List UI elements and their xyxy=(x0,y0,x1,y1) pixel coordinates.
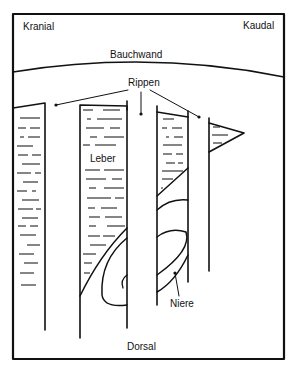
label-ribs: Rippen xyxy=(128,77,160,88)
kidney-outline-rib2 xyxy=(102,238,127,306)
frame-border xyxy=(13,14,284,359)
rib-1 xyxy=(13,103,45,330)
kidney-leader-line xyxy=(175,273,179,296)
kidney-upper-edge xyxy=(157,200,188,210)
liver-lower-edge xyxy=(80,228,127,296)
rib-2-liver: Leber xyxy=(80,101,127,338)
label-caudal: Kaudal xyxy=(243,20,274,31)
rib-3-kidney: Niere xyxy=(157,106,194,309)
kidney-arc xyxy=(157,230,187,275)
kidney-lower-edge xyxy=(157,255,188,292)
rib-4 xyxy=(209,118,244,271)
label-dorsal: Dorsal xyxy=(127,341,156,352)
label-liver: Leber xyxy=(90,153,116,164)
liver-edge-rib3 xyxy=(157,168,188,196)
label-kidney: Niere xyxy=(170,298,194,309)
anatomy-diagram: Kranial Kaudal Bauchwand Rippen xyxy=(0,0,295,367)
abdominal-wall-line xyxy=(13,62,284,77)
label-abdominal-wall: Bauchwand xyxy=(110,49,162,60)
label-cranial: Kranial xyxy=(23,21,54,32)
